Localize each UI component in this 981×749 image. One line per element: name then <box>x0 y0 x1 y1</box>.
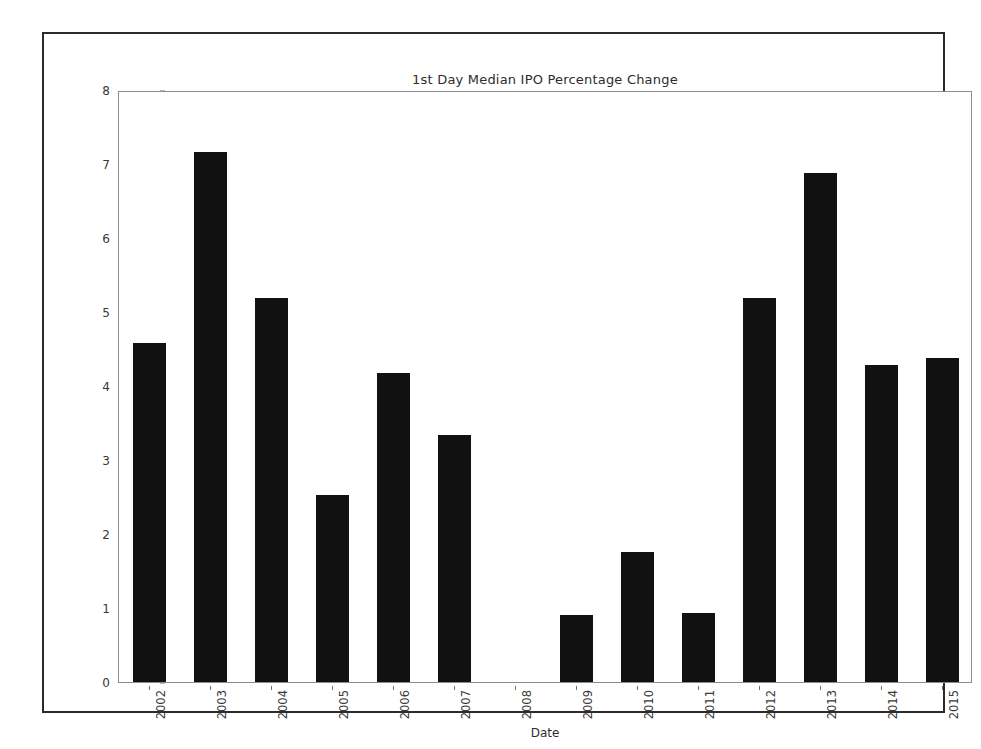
x-axis-tick-label: 2006 <box>398 690 412 719</box>
x-axis-tick-mark <box>820 686 821 690</box>
x-axis-tick-label: 2015 <box>947 690 961 719</box>
x-axis-title: Date <box>118 726 972 740</box>
y-axis-tick-label: 8 <box>102 84 110 98</box>
x-axis-tick-mark <box>576 686 577 690</box>
x-axis-tick-label: 2013 <box>825 690 839 719</box>
x-axis-tick-label: 2002 <box>154 690 168 719</box>
x-axis-tick-mark <box>393 686 394 690</box>
x-axis-tick-mark <box>942 686 943 690</box>
x-axis-tick-mark <box>454 686 455 690</box>
y-axis-tick-label: 7 <box>102 158 110 172</box>
bar <box>438 435 470 682</box>
bar <box>133 343 165 682</box>
x-axis-tick-label: 2003 <box>215 690 229 719</box>
x-axis-tick-label: 2008 <box>520 690 534 719</box>
y-axis: 012345678 <box>86 91 118 683</box>
x-axis-tick-label: 2009 <box>581 690 595 719</box>
x-axis-tick-label: 2007 <box>459 690 473 719</box>
x-axis-tick-mark <box>210 686 211 690</box>
figure-border: 1st Day Median IPO Percentage Change 012… <box>42 32 945 713</box>
y-axis-tick-label: 4 <box>102 380 110 394</box>
x-axis-tick-mark <box>637 686 638 690</box>
bar <box>255 298 287 682</box>
x-axis-tick-mark <box>881 686 882 690</box>
bar <box>743 298 775 682</box>
y-axis-tick-label: 1 <box>102 602 110 616</box>
bar <box>621 552 653 682</box>
x-axis-tick-label: 2012 <box>764 690 778 719</box>
bar <box>377 373 409 682</box>
y-axis-tick-label: 2 <box>102 528 110 542</box>
chart-title: 1st Day Median IPO Percentage Change <box>118 72 972 87</box>
bar <box>682 613 714 682</box>
bar <box>316 495 348 682</box>
x-axis-tick-label: 2011 <box>703 690 717 719</box>
x-axis-tick-mark <box>271 686 272 690</box>
x-axis-tick-label: 2014 <box>886 690 900 719</box>
bar <box>194 152 226 682</box>
x-axis-tick-mark <box>698 686 699 690</box>
x-axis-tick-mark <box>332 686 333 690</box>
y-axis-tick-label: 5 <box>102 306 110 320</box>
x-axis-tick-mark <box>515 686 516 690</box>
bar <box>804 173 836 682</box>
x-axis-tick-label: 2010 <box>642 690 656 719</box>
y-axis-tick-label: 6 <box>102 232 110 246</box>
y-axis-tick-label: 3 <box>102 454 110 468</box>
plot-area <box>118 91 972 683</box>
x-axis-tick-label: 2004 <box>276 690 290 719</box>
bar <box>560 615 592 682</box>
bar <box>926 358 958 682</box>
y-axis-tick-label: 0 <box>102 676 110 690</box>
x-axis-tick-label: 2005 <box>337 690 351 719</box>
bar <box>865 365 897 682</box>
x-axis-tick-mark <box>759 686 760 690</box>
x-axis-tick-mark <box>149 686 150 690</box>
